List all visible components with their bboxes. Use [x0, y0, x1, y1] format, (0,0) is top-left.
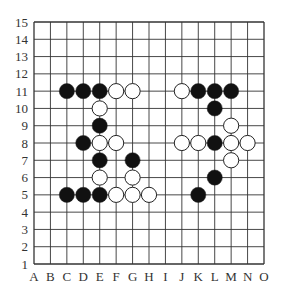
row-label: 6 — [22, 170, 29, 185]
column-label: H — [144, 269, 153, 284]
column-label: O — [259, 269, 268, 284]
row-label: 10 — [15, 101, 28, 116]
column-label: A — [29, 269, 39, 284]
row-label: 13 — [15, 49, 28, 64]
white-stone — [224, 153, 239, 168]
white-stone — [125, 84, 140, 99]
black-stone — [76, 187, 91, 202]
column-label: N — [243, 269, 253, 284]
row-label: 1 — [22, 257, 29, 272]
black-stone — [59, 187, 74, 202]
black-stone — [76, 135, 91, 150]
black-stone — [92, 84, 107, 99]
black-stone — [191, 84, 206, 99]
white-stone — [224, 135, 239, 150]
black-stone — [76, 84, 91, 99]
white-stone — [109, 84, 124, 99]
row-label: 4 — [22, 205, 29, 220]
black-stone — [59, 84, 74, 99]
white-stone — [191, 135, 206, 150]
black-stone — [207, 170, 222, 185]
column-label: B — [46, 269, 55, 284]
column-label: K — [194, 269, 204, 284]
row-label: 11 — [15, 84, 28, 99]
column-label: M — [225, 269, 237, 284]
black-stone — [191, 187, 206, 202]
column-label: J — [179, 269, 184, 284]
black-stone — [207, 84, 222, 99]
black-stone — [92, 187, 107, 202]
column-label: C — [63, 269, 72, 284]
column-label: L — [211, 269, 219, 284]
column-label: I — [163, 269, 167, 284]
column-labels: ABCDEFGHIJKLMNO — [29, 269, 268, 284]
white-stone — [109, 187, 124, 202]
column-label: E — [96, 269, 104, 284]
white-stone — [240, 135, 255, 150]
white-stone — [141, 187, 156, 202]
row-label: 5 — [22, 187, 29, 202]
white-stone — [109, 135, 124, 150]
black-stone — [125, 153, 140, 168]
white-stone — [92, 135, 107, 150]
black-stone — [207, 135, 222, 150]
row-labels: 123456789101112131415 — [15, 15, 29, 272]
row-label: 3 — [22, 222, 29, 237]
row-label: 12 — [15, 66, 28, 81]
row-label: 2 — [22, 239, 29, 254]
black-stone — [92, 153, 107, 168]
row-label: 15 — [15, 15, 28, 30]
white-stone — [92, 101, 107, 116]
row-label: 9 — [22, 118, 29, 133]
black-stone — [92, 118, 107, 133]
white-stone — [125, 170, 140, 185]
black-stone — [207, 101, 222, 116]
white-stone — [125, 187, 140, 202]
white-stone — [224, 118, 239, 133]
row-label: 14 — [15, 32, 29, 47]
column-label: F — [113, 269, 120, 284]
white-stone — [174, 135, 189, 150]
white-stone — [174, 84, 189, 99]
column-label: G — [128, 269, 137, 284]
column-label: D — [79, 269, 88, 284]
game-board[interactable]: 123456789101112131415 ABCDEFGHIJKLMNO — [0, 0, 281, 295]
row-label: 7 — [22, 153, 29, 168]
black-stone — [224, 84, 239, 99]
white-stone — [92, 170, 107, 185]
row-label: 8 — [22, 136, 29, 151]
